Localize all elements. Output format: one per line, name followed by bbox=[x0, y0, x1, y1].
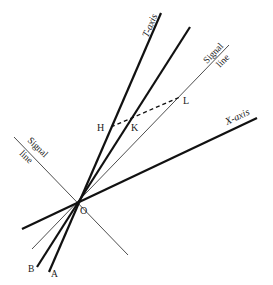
point-label-k: K bbox=[131, 122, 139, 133]
point-label-a: A bbox=[51, 269, 58, 279]
t-axis-line bbox=[49, 13, 161, 272]
dashed-segment-h-l bbox=[111, 97, 180, 127]
worldline-b bbox=[37, 27, 190, 267]
point-label-o: O bbox=[80, 205, 87, 216]
spacetime-diagram: T-axis X-axis Signal line Signal line H … bbox=[0, 0, 273, 285]
point-label-l: L bbox=[183, 95, 189, 106]
point-label-h: H bbox=[97, 122, 104, 133]
x-axis-label: X-axis bbox=[222, 106, 251, 127]
x-axis-line bbox=[22, 118, 257, 229]
point-label-b: B bbox=[28, 264, 34, 274]
signal-line-left-label-2: line bbox=[18, 148, 35, 165]
signal-line-right bbox=[32, 45, 229, 249]
